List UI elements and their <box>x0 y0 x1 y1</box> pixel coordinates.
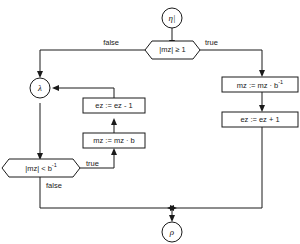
node-decision-top-label: |mz| ≥ 1 <box>159 45 185 54</box>
node-decision-bottom-text: |mz| < b <box>25 163 52 172</box>
node-lambda-label: λ <box>37 83 42 93</box>
edge-decision-top-false <box>37 50 145 78</box>
node-process-mz-multiply[interactable]: mz := mz · b <box>83 133 145 148</box>
edge-label-top-true: true <box>205 38 218 47</box>
flowchart-svg: η| |mz| ≥ 1 λ mz := mz · b-1 ez := ez + … <box>0 0 300 244</box>
node-exit-label: ρ <box>169 227 175 237</box>
edge-label-bottom-true: true <box>86 159 99 168</box>
node-decision-top[interactable]: |mz| ≥ 1 <box>145 41 200 59</box>
node-process-mz-divide-sup: -1 <box>278 79 283 85</box>
node-process-mz-divide-label: mz := mz · b-1 <box>237 79 283 90</box>
node-entry-connector[interactable]: η| <box>162 8 182 28</box>
node-process-mz-multiply-label: mz := mz · b <box>93 136 134 145</box>
edge-decision-top-true <box>200 50 265 77</box>
node-decision-bottom[interactable]: |mz| < b-1 <box>2 159 80 177</box>
edge-label-bottom-false: false <box>46 181 62 190</box>
edge-lambda-to-decision-bottom <box>37 103 43 160</box>
node-exit-connector[interactable]: ρ <box>162 222 182 242</box>
node-process-mz-divide[interactable]: mz := mz · b-1 <box>222 77 298 92</box>
edge-label-top-false: false <box>103 38 119 47</box>
edge-mzdiv-to-ezinc <box>259 92 265 112</box>
edge-ezdec-to-lambda <box>52 85 114 98</box>
node-process-ez-increment[interactable]: ez := ez + 1 <box>222 112 298 127</box>
flowchart-canvas: η| |mz| ≥ 1 λ mz := mz · b-1 ez := ez + … <box>0 0 300 244</box>
edge-ezinc-to-exit-junction <box>167 127 262 211</box>
node-lambda-connector[interactable]: λ <box>30 78 50 98</box>
node-process-ez-decrement-label: ez := ez - 1 <box>95 101 132 110</box>
node-process-ez-increment-label: ez := ez + 1 <box>240 115 279 124</box>
node-process-ez-decrement[interactable]: ez := ez - 1 <box>83 98 145 113</box>
edge-mzmul-to-ezdec <box>111 118 117 133</box>
node-process-mz-divide-text: mz := mz · b <box>237 80 278 89</box>
edge-junction-to-exit <box>169 208 175 222</box>
node-decision-bottom-sup: -1 <box>52 162 57 168</box>
node-entry-label: η| <box>169 13 176 23</box>
